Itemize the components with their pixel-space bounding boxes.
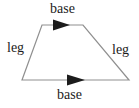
bottom-base-label: base [57, 88, 82, 103]
left-leg-label: leg [7, 41, 24, 56]
trapezoid-diagram: base leg leg base [0, 0, 139, 108]
right-leg-label: leg [112, 43, 129, 58]
bottom-base-parallel-arrow-icon [67, 75, 85, 86]
top-base-parallel-arrow-icon [53, 20, 70, 31]
top-base-label: base [50, 2, 75, 17]
